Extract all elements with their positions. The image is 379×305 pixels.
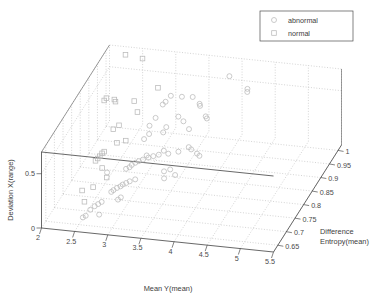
svg-text:3.5: 3.5 (132, 243, 142, 252)
svg-text:0.5: 0.5 (25, 169, 35, 178)
svg-text:0.65: 0.65 (285, 242, 299, 251)
svg-text:0.8: 0.8 (311, 201, 321, 210)
svg-text:0.7: 0.7 (294, 228, 304, 237)
back-wall-gridlines (110, 45, 342, 145)
legend-label-abnormal: abnormal (288, 16, 318, 25)
data-points (80, 52, 250, 219)
axis-lines (42, 45, 342, 252)
left-wall-gridlines (42, 45, 110, 221)
svg-text:Entropy(mean): Entropy(mean) (320, 237, 369, 246)
legend-label-normal: normal (288, 29, 310, 38)
axis-titles: Mean Y(mean)Deviation X(range)Difference… (6, 159, 369, 293)
scatter-3d-plot: 5.554.543.532.520.650.70.750.80.850.90.9… (0, 0, 379, 305)
svg-text:5: 5 (235, 254, 239, 263)
svg-text:0: 0 (31, 224, 35, 233)
svg-text:Mean Y(mean): Mean Y(mean) (144, 284, 193, 293)
svg-text:Difference: Difference (320, 227, 354, 236)
chart-root: 5.554.543.532.520.650.70.750.80.850.90.9… (0, 0, 379, 305)
svg-text:Deviation X(range): Deviation X(range) (6, 159, 15, 221)
svg-text:4.5: 4.5 (199, 250, 209, 259)
svg-text:5.5: 5.5 (265, 257, 275, 266)
svg-text:3: 3 (102, 240, 106, 249)
svg-text:4: 4 (169, 247, 173, 256)
svg-text:0.9: 0.9 (328, 174, 338, 183)
svg-text:2.5: 2.5 (66, 237, 76, 246)
svg-text:1: 1 (346, 147, 350, 156)
svg-text:0.85: 0.85 (320, 188, 334, 197)
svg-text:2: 2 (36, 233, 40, 242)
svg-text:0.75: 0.75 (303, 215, 317, 224)
svg-text:0.95: 0.95 (337, 161, 351, 170)
legend[interactable]: abnormalnormal (260, 11, 353, 41)
